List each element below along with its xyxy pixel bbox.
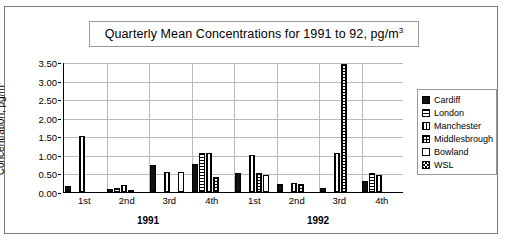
x-axis-year-label: 1991 xyxy=(137,215,159,226)
bar-group xyxy=(319,63,362,192)
bar xyxy=(128,190,134,192)
bar xyxy=(107,189,113,192)
legend-item-label: Manchester xyxy=(434,121,481,131)
bar-group xyxy=(234,63,277,192)
legend-swatch-icon xyxy=(422,96,430,104)
legend-swatch-icon xyxy=(422,109,430,117)
bar xyxy=(256,173,262,192)
bar xyxy=(235,173,241,192)
bar xyxy=(178,172,184,192)
y-axis-title: Concentration, pg/m3 xyxy=(0,63,7,193)
bar xyxy=(291,183,297,192)
bar xyxy=(320,188,326,192)
plot-wrapper xyxy=(63,63,403,193)
bar xyxy=(79,136,85,192)
chart-page: Quarterly Mean Concentrations for 1991 t… xyxy=(0,0,505,252)
y-axis-tick-mark xyxy=(58,63,61,64)
legend-item-label: Cardiff xyxy=(434,95,460,105)
chart-legend: CardiffLondonManchesterMiddlesbroughBowl… xyxy=(417,89,497,175)
y-axis-tick-mark xyxy=(58,174,61,175)
x-axis-tick-label: 1st xyxy=(248,195,261,206)
bar xyxy=(249,155,255,192)
legend-swatch-icon xyxy=(422,148,430,156)
bar xyxy=(334,153,340,192)
chart-title-label: Quarterly Mean Concentrations for 1991 t… xyxy=(105,28,399,42)
y-axis-title-superscript: 3 xyxy=(0,81,2,85)
page-title: Quarterly Mean Concentrations for 1991 t… xyxy=(105,26,404,41)
bar xyxy=(121,185,127,192)
legend-item: Manchester xyxy=(422,119,493,132)
bar xyxy=(277,184,283,192)
y-axis-tick-label: 2.50 xyxy=(39,95,58,106)
bar xyxy=(192,164,198,192)
y-axis-tick-mark xyxy=(58,156,61,157)
x-axis-tick-label: 4th xyxy=(375,195,388,206)
x-axis-ticks: 1st2nd3rd4th1st2nd3rd4th xyxy=(63,195,403,211)
x-axis-tick-label: 1st xyxy=(78,195,91,206)
plot-area xyxy=(63,63,403,193)
legend-swatch-icon xyxy=(422,122,430,130)
legend-item: Bowland xyxy=(422,145,493,158)
bar xyxy=(164,172,170,192)
bar xyxy=(199,153,205,192)
x-axis-tick-label: 2nd xyxy=(289,195,305,206)
bar xyxy=(150,165,156,192)
bar-group xyxy=(192,63,235,192)
y-axis-tick-label: 2.00 xyxy=(39,113,58,124)
legend-item-label: WSL xyxy=(434,160,454,170)
bar-group xyxy=(277,63,320,192)
y-axis-ticks: 0.000.501.001.502.002.503.003.50 xyxy=(19,63,61,193)
y-axis-tick-mark xyxy=(58,100,61,101)
y-axis-tick-label: 3.50 xyxy=(39,58,58,69)
bar-group xyxy=(362,63,405,192)
y-axis-tick-mark xyxy=(58,119,61,120)
legend-item: Middlesbrough xyxy=(422,132,493,145)
chart-title-superscript: 3 xyxy=(399,26,404,35)
bar-group xyxy=(149,63,192,192)
x-axis-year-label: 1992 xyxy=(307,215,329,226)
y-axis-tick-label: 0.50 xyxy=(39,169,58,180)
y-axis-tick-mark xyxy=(58,193,61,194)
x-axis-tick-label: 2nd xyxy=(119,195,135,206)
y-axis-tick-label: 1.50 xyxy=(39,132,58,143)
legend-item-label: Bowland xyxy=(434,147,469,157)
y-axis-tick-label: 3.00 xyxy=(39,76,58,87)
bar xyxy=(376,175,382,192)
bar xyxy=(341,64,347,192)
legend-item: WSL xyxy=(422,158,493,171)
bar xyxy=(213,177,219,192)
bar-group xyxy=(107,63,150,192)
legend-item: London xyxy=(422,106,493,119)
y-axis-tick-label: 0.00 xyxy=(39,188,58,199)
bar xyxy=(298,184,304,192)
x-axis-group-labels: 19911992 xyxy=(63,215,403,231)
legend-item: Cardiff xyxy=(422,93,493,106)
y-axis-title-label: Concentration, pg/m xyxy=(0,85,6,175)
bar xyxy=(263,175,269,192)
chart-title-box: Quarterly Mean Concentrations for 1991 t… xyxy=(89,21,419,47)
x-axis-tick-label: 3rd xyxy=(162,195,176,206)
bar-group xyxy=(64,63,107,192)
y-axis-tick-mark xyxy=(58,82,61,83)
y-axis-tick-label: 1.00 xyxy=(39,150,58,161)
bar xyxy=(362,181,368,192)
bar xyxy=(369,173,375,192)
bar xyxy=(114,188,120,192)
x-axis-tick-label: 3rd xyxy=(332,195,346,206)
bar xyxy=(65,186,71,192)
legend-item-label: London xyxy=(434,108,464,118)
legend-item-label: Middlesbrough xyxy=(434,134,493,144)
legend-swatch-icon xyxy=(422,161,430,169)
legend-swatch-icon xyxy=(422,135,430,143)
bar xyxy=(206,153,212,192)
y-axis-tick-mark xyxy=(58,137,61,138)
chart-frame: Quarterly Mean Concentrations for 1991 t… xyxy=(4,6,498,234)
x-axis-tick-label: 4th xyxy=(205,195,218,206)
